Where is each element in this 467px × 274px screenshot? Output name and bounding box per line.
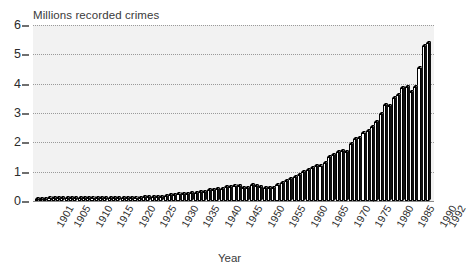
bar	[151, 197, 154, 201]
x-axis: 1901190519101915192019251930193519401945…	[33, 203, 434, 245]
y-tick-mark	[22, 142, 29, 144]
bar-side	[218, 187, 220, 201]
bar-side	[330, 155, 332, 201]
bar	[293, 177, 296, 201]
bar-side	[352, 142, 354, 201]
bar	[250, 185, 253, 201]
bar	[306, 170, 309, 201]
x-tick-label: 1970	[351, 203, 373, 229]
bar-side	[356, 137, 358, 201]
bar	[121, 198, 124, 201]
bar	[207, 190, 210, 201]
bar-face	[250, 185, 253, 201]
bar-side	[283, 181, 285, 201]
y-tick-mark	[22, 25, 29, 27]
bars-series	[33, 25, 434, 201]
y-tick-mark	[22, 201, 29, 203]
bar-face	[108, 198, 111, 201]
bar	[194, 193, 197, 201]
bar-side	[343, 149, 345, 201]
chart-title: Millions recorded crimes	[33, 9, 159, 21]
bar	[349, 144, 352, 201]
bar-side	[266, 186, 268, 201]
bar-side	[416, 85, 418, 201]
y-axis: 0123456	[0, 25, 29, 201]
x-tick-label: 1960	[308, 203, 330, 229]
bar-side	[365, 131, 367, 201]
bar-side	[244, 186, 246, 201]
bar-side	[425, 44, 427, 201]
x-tick-label: 1985	[415, 203, 437, 229]
bar-face	[121, 198, 124, 201]
y-tick-label: 2	[14, 135, 21, 149]
bar-face	[336, 152, 339, 201]
y-tick-mark	[22, 84, 29, 86]
bar-face	[194, 193, 197, 201]
bar-face	[164, 196, 167, 201]
bar-face	[306, 170, 309, 201]
bar-side	[421, 66, 423, 201]
bar-side	[279, 183, 281, 201]
bar-side	[412, 90, 414, 201]
bar	[336, 152, 339, 201]
bar-side	[408, 85, 410, 201]
x-tick-label: 1915	[114, 203, 136, 229]
y-tick-label: 0	[14, 194, 21, 208]
bar-side	[322, 164, 324, 201]
bar-side	[236, 184, 238, 201]
y-tick-mark	[22, 172, 29, 174]
x-tick-label: 1980	[394, 203, 416, 229]
x-tick-label: 1905	[71, 203, 93, 229]
bar-side	[339, 150, 341, 201]
y-tick-mark	[22, 113, 29, 115]
bar	[35, 199, 38, 201]
bar-face	[293, 177, 296, 201]
x-tick-label: 1920	[135, 203, 157, 229]
bar-side	[300, 173, 302, 201]
bar-side	[399, 93, 401, 201]
bar-face	[392, 98, 395, 201]
x-tick-label: 1925	[157, 203, 179, 229]
bar-side	[369, 129, 371, 201]
x-tick-label: 1901	[54, 203, 76, 229]
bar-side	[240, 184, 242, 201]
x-tick-label: 1950	[265, 203, 287, 229]
bar-face	[379, 114, 382, 201]
y-tick-label: 6	[14, 18, 21, 32]
bar-face	[151, 197, 154, 201]
bar-side	[309, 168, 311, 201]
x-tick-label: 1945	[243, 203, 265, 229]
bar-side	[231, 185, 233, 201]
y-tick-label: 3	[14, 106, 21, 120]
x-axis-title-label: Year	[200, 252, 241, 264]
bar-side	[227, 185, 229, 201]
bar	[108, 198, 111, 201]
bar-side	[373, 125, 375, 202]
y-tick-mark	[22, 54, 29, 56]
bar	[392, 98, 395, 201]
bar-side	[210, 188, 212, 201]
x-axis-title: Year	[0, 252, 441, 264]
plot-area	[33, 25, 434, 201]
bar-side	[382, 112, 384, 201]
x-tick-label: 1940	[222, 203, 244, 229]
bar-side	[386, 103, 388, 201]
bar-side	[395, 96, 397, 201]
bar	[379, 114, 382, 201]
bar-face	[207, 190, 210, 201]
x-tick-label: 1965	[329, 203, 351, 229]
x-tick-label: 1910	[92, 203, 114, 229]
bar-side	[296, 175, 298, 201]
bar-side	[429, 41, 431, 201]
bar-side	[274, 186, 276, 201]
bar-side	[326, 161, 328, 201]
bar	[164, 196, 167, 201]
x-tick-label: 1955	[286, 203, 308, 229]
bar-face	[349, 144, 352, 201]
bar-face	[35, 199, 38, 201]
bar-side	[313, 166, 315, 201]
x-tick-label: 1935	[200, 203, 222, 229]
x-tick-label: 1930	[178, 203, 200, 229]
bar-side	[253, 183, 255, 201]
y-tick-label: 1	[14, 165, 21, 179]
